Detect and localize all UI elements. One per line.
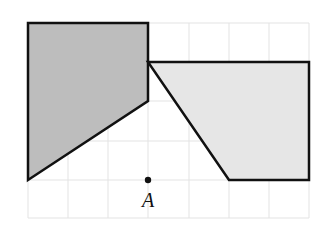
light-quadrilateral	[148, 62, 309, 180]
point-a-marker	[145, 177, 151, 183]
dark-quadrilateral	[28, 23, 148, 180]
diagram-canvas: A	[0, 0, 330, 225]
point-a-label: A	[140, 189, 155, 211]
